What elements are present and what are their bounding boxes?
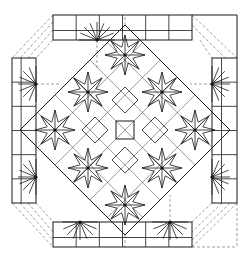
rosette-7-hub [193, 128, 196, 131]
construction-line [12, 203, 53, 247]
rosette-2-hub [86, 166, 89, 169]
rosette-5-hub [123, 203, 126, 206]
half-rosette-ray [67, 222, 80, 235]
half-rosette-ray [23, 84, 36, 97]
construction-line [28, 203, 53, 232]
strip-left [12, 58, 38, 203]
construction-line [36, 40, 53, 58]
construction-line [36, 203, 53, 222]
rosette-0-hub [86, 90, 89, 93]
half-rosette-hub [78, 220, 81, 223]
half-rosette-hub [210, 175, 213, 178]
inner-diamond [142, 117, 168, 143]
strip-bottom [53, 220, 192, 247]
tiling-diagram [0, 0, 250, 267]
rosette-6-hub [53, 128, 56, 131]
half-rosette-hub [210, 82, 213, 85]
half-rosette-ray [157, 222, 170, 235]
rosette-1-hub [160, 90, 163, 93]
tiling-svg [0, 0, 250, 267]
half-rosette-hub [34, 175, 37, 178]
half-rosette-ray [80, 222, 93, 235]
construction-line [12, 15, 53, 58]
construction-line [192, 203, 230, 240]
half-rosette-ray [212, 164, 225, 177]
strip-top [53, 15, 192, 42]
half-rosette-ray [170, 222, 183, 235]
inner-diamond [112, 147, 138, 173]
half-rosette-hub [34, 82, 37, 85]
construction-line [192, 203, 212, 222]
inner-diamond [112, 87, 138, 113]
half-rosette-ray [212, 84, 225, 97]
half-rosette-ray [84, 27, 97, 40]
half-rosette-ray [97, 27, 110, 40]
half-rosette-ray [23, 164, 36, 177]
rosette-3-hub [160, 166, 163, 169]
construction-line [20, 22, 53, 58]
construction-line [20, 203, 53, 240]
half-rosette-hub [168, 220, 171, 223]
rosette-4-hub [123, 53, 126, 56]
inner-diamond [82, 117, 108, 143]
central-diamond [0, 0, 230, 235]
construction-line [192, 15, 237, 58]
half-rosette-hub [95, 38, 98, 41]
